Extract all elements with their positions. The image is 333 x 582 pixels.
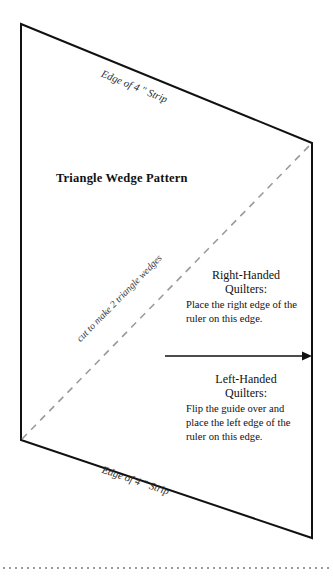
left-handed-body: Flip the guide over and place the left e…: [186, 402, 306, 443]
pattern-sheet: Triangle Wedge Pattern Edge of 4 " Strip…: [0, 0, 333, 582]
left-handed-instructions: Left-Handed Quilters: Flip the guide ove…: [186, 372, 306, 444]
right-handed-heading-line-1: Right-Handed: [212, 268, 280, 282]
right-handed-heading: Right-Handed Quilters:: [186, 268, 306, 296]
left-handed-heading: Left-Handed Quilters:: [186, 372, 306, 400]
left-handed-heading-line-1: Left-Handed: [215, 372, 276, 386]
right-handed-body: Place the right edge of the ruler on thi…: [186, 298, 306, 326]
left-handed-heading-line-2: Quilters:: [225, 386, 267, 400]
right-handed-heading-line-2: Quilters:: [225, 282, 267, 296]
right-handed-instructions: Right-Handed Quilters: Place the right e…: [186, 268, 306, 326]
pattern-title: Triangle Wedge Pattern: [56, 171, 188, 186]
